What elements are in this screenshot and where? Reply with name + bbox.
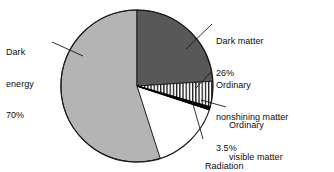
slice-label-dark-energy: Dark energy 70% [6,26,34,131]
slice-label-dark-energy-value: 70% [6,110,34,121]
slice-label-visible-line1: Ordinary [229,120,283,131]
slice-label-dark-energy-line2: energy [6,79,34,90]
slice-label-radiation-line1: Radiation [205,161,243,172]
slice-label-dark-matter-line1: Dark matter [216,36,264,47]
slice-label-nonshining-line1: Ordinary [216,80,288,91]
slice-label-radiation: Radiation <0.01% [205,140,243,172]
slice-label-dark-energy-line1: Dark [6,47,34,58]
